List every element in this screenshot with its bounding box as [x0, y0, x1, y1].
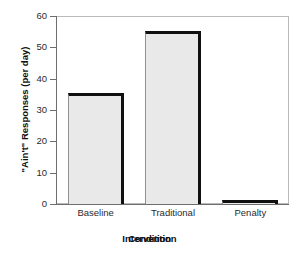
bars-layer: [57, 16, 289, 204]
bar-chart: "Ain't" Responses (per day) 010203040506…: [0, 0, 299, 255]
x-axis-category-label: Penalty: [190, 207, 299, 218]
y-axis-tick-label: 50: [7, 42, 47, 52]
y-axis-tick-label: 40: [7, 74, 47, 84]
y-axis-tick-label: 10: [7, 168, 47, 178]
y-axis-tick-label: 20: [7, 136, 47, 146]
y-axis-tick-label: 30: [7, 105, 47, 115]
y-axis-tick-label: 60: [7, 11, 47, 21]
x-axis-title-group: Intervention Condition: [0, 233, 299, 247]
bar: [145, 31, 201, 204]
bar: [222, 200, 278, 204]
bar: [68, 93, 124, 204]
x-axis-spine: [56, 204, 289, 205]
x-axis-title-overlap: Condition: [0, 233, 299, 244]
